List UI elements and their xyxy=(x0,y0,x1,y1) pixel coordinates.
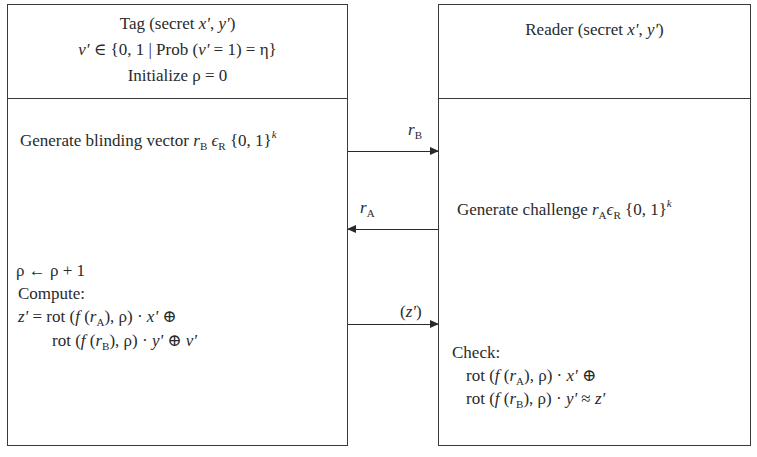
var-v: v' xyxy=(198,40,209,59)
text: ( xyxy=(500,389,510,408)
sup: k xyxy=(667,197,672,209)
tag-compute-label: Compute: xyxy=(18,284,85,304)
message-ra-label: rA xyxy=(360,198,375,223)
set: {0, 1} xyxy=(226,131,272,150)
var-z: z' xyxy=(18,307,28,326)
reader-check-line2: rot (f (rB), ρ) · y' ≈ z' xyxy=(466,389,605,414)
tag-title: Tag (secret x', y') xyxy=(7,14,348,34)
var-y: y' xyxy=(647,20,658,39)
tag-increment-rho: ρ ← ρ + 1 xyxy=(16,261,85,281)
arrow-reader-to-tag-ra xyxy=(348,229,438,230)
var-z: z' xyxy=(406,302,416,321)
var-x: x' xyxy=(627,20,638,39)
text: ), ρ) · xyxy=(524,366,566,385)
var-y: y' xyxy=(152,331,163,350)
text: rot ( xyxy=(466,366,495,385)
tag-compute-line2: rot (f (rB), ρ) · y' ⊕ v' xyxy=(52,331,197,356)
text: ( xyxy=(500,366,510,385)
xor: ⊕ xyxy=(158,307,177,326)
sub: A xyxy=(516,375,524,387)
text: ), ρ) · xyxy=(523,389,565,408)
tag-init: Initialize ρ = 0 xyxy=(7,66,348,86)
var-r: r xyxy=(592,200,599,219)
sub: R xyxy=(218,140,225,152)
reader-header-divider xyxy=(438,98,751,99)
text: ( xyxy=(86,331,96,350)
reader-check-line1: rot (f (rA), ρ) · x' ⊕ xyxy=(466,366,596,391)
tag-noise-def: v' ∈ {0, 1 | Prob (v' = 1) = η} xyxy=(7,40,348,60)
var-x: x' xyxy=(199,14,210,33)
sub: B xyxy=(415,129,422,141)
approx: ≈ xyxy=(577,389,595,408)
reader-title-text: Reader (secret xyxy=(525,20,627,39)
sub: A xyxy=(599,209,607,221)
reader-step-generate-challenge: Generate challenge rAϵR {0, 1}k xyxy=(457,193,672,225)
arrow-tag-to-reader-rb xyxy=(348,151,438,152)
tag-step-generate-blinding: Generate blinding vector rB ϵR {0, 1}k xyxy=(20,124,277,156)
tag-title-text: Tag (secret xyxy=(120,14,199,33)
text: = 1) = η} xyxy=(209,40,276,59)
tag-compute-line1: z' = rot (f (rA), ρ) · x' ⊕ xyxy=(18,307,177,332)
paren: ) xyxy=(230,14,236,33)
var-y: y' xyxy=(218,14,229,33)
message-rb-label: rB xyxy=(408,120,422,145)
var-z: z' xyxy=(595,389,605,408)
xor: ⊕ xyxy=(578,366,597,385)
reader-check-label: Check: xyxy=(452,343,500,363)
var-r: r xyxy=(193,131,200,150)
xor: ⊕ xyxy=(163,331,186,350)
text: Generate blinding vector xyxy=(20,131,193,150)
var-x: x' xyxy=(567,366,578,385)
var-r: r xyxy=(408,120,415,139)
text: ( xyxy=(80,307,90,326)
sep: , xyxy=(638,20,647,39)
paren: ) xyxy=(658,20,664,39)
text: = rot ( xyxy=(28,307,75,326)
var-x: x' xyxy=(147,307,158,326)
sup: k xyxy=(272,128,277,140)
var-v: v' xyxy=(78,40,89,59)
var-v: v' xyxy=(186,331,197,350)
message-z-label: (z') xyxy=(400,302,422,322)
text: ), ρ) · xyxy=(109,331,151,350)
paren: ) xyxy=(416,302,422,321)
reader-title: Reader (secret x', y') xyxy=(438,20,751,40)
text: Generate challenge xyxy=(457,200,592,219)
set: {0, 1} xyxy=(621,200,667,219)
arrow-tag-to-reader-z xyxy=(348,324,438,325)
var-y: y' xyxy=(566,389,577,408)
tag-header-divider xyxy=(7,98,348,99)
sub: A xyxy=(367,207,375,219)
var-r: r xyxy=(360,198,367,217)
epsilon: ϵ xyxy=(207,131,218,150)
text: rot ( xyxy=(466,389,495,408)
text: ∈ {0, 1 | Prob ( xyxy=(89,40,198,59)
sub: R xyxy=(613,209,620,221)
text: rot ( xyxy=(52,331,81,350)
text: ), ρ) · xyxy=(104,307,146,326)
